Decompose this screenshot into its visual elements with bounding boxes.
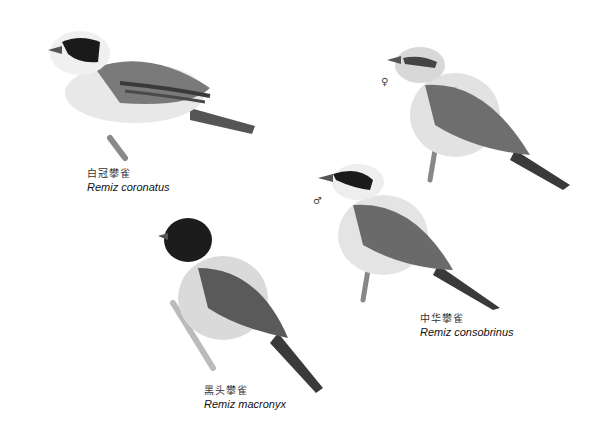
label-remiz-coronatus: 白冠攀雀 Remiz coronatus [87, 168, 170, 194]
latin-name: Remiz coronatus [87, 181, 170, 195]
latin-name: Remiz consobrinus [420, 326, 514, 340]
chinese-name: 中华攀雀 [420, 313, 514, 326]
chinese-name: 黑头攀雀 [204, 385, 286, 398]
label-remiz-macronyx: 黑头攀雀 Remiz macronyx [204, 385, 286, 411]
bird-remiz-macronyx [158, 218, 328, 393]
bird-remiz-coronatus [40, 28, 270, 163]
label-remiz-consobrinus: 中华攀雀 Remiz consobrinus [420, 313, 514, 339]
bird-plate: 白冠攀雀 Remiz coronatus ♀ ♂ 中华攀雀 Remiz cons… [0, 0, 613, 442]
chinese-name: 白冠攀雀 [87, 168, 170, 181]
bird-remiz-consobrinus-male [318, 160, 503, 310]
latin-name: Remiz macronyx [204, 398, 286, 412]
